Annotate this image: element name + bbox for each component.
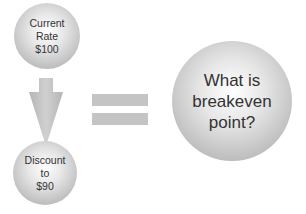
current-rate-text: Current Rate $100 — [29, 17, 64, 56]
down-arrow-icon — [28, 78, 64, 146]
breakeven-circle: What is breakeven point? — [172, 41, 292, 161]
discount-circle: Discount to $90 — [13, 141, 77, 205]
breakeven-text: What is breakeven point? — [192, 70, 271, 133]
equals-top-bar — [92, 94, 148, 106]
equals-bottom-bar — [92, 113, 148, 125]
current-rate-circle: Current Rate $100 — [14, 3, 80, 69]
discount-text: Discount to $90 — [25, 154, 66, 193]
